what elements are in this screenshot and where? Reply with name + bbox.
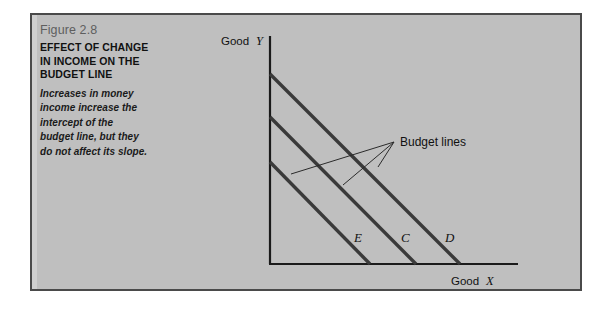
budget-lines-callout-label: Budget lines [400, 135, 466, 149]
callout-leader-2 [343, 142, 394, 185]
figure-frame: Figure 2.8 EFFECT OF CHANGE IN INCOME ON… [30, 13, 582, 291]
budget-line-d [270, 74, 460, 264]
budget-line-e [270, 162, 370, 264]
figure-page: Figure 2.8 EFFECT OF CHANGE IN INCOME ON… [0, 0, 612, 309]
budget-line-c [270, 117, 416, 264]
x-axis-label-prefix: Good [451, 275, 479, 287]
x-axis-label-variable: X [485, 274, 495, 288]
y-axis-label-variable: Y [256, 34, 265, 48]
y-axis-label-prefix: Good [221, 35, 249, 47]
budget-line-label-d: D [444, 230, 455, 245]
budget-line-label-c: C [401, 230, 410, 245]
budget-line-chart: Budget lines Good Y Good X E C D [32, 15, 584, 293]
budget-line-label-e: E [353, 230, 362, 245]
